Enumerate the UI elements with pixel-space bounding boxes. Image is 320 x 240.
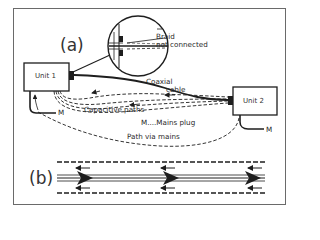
magnifier-leader — [73, 55, 110, 72]
part-a-label: (a) — [60, 37, 84, 54]
path-via-mains-label: Path via mains — [127, 133, 180, 140]
mains-plug-m-right: M — [266, 126, 272, 133]
path-via-mains — [38, 112, 239, 146]
unit2-connector — [228, 96, 233, 105]
mains-plug-m-left: M — [58, 109, 64, 116]
unit1-label: Unit 1 — [35, 73, 56, 80]
coax-label-line2: cable — [166, 86, 185, 93]
braid-label-line2: not connected — [156, 41, 208, 48]
capacitive-paths-label: Capacitive paths — [84, 106, 144, 113]
unit1-mains-lead — [30, 91, 56, 113]
unit2-mains-lead — [240, 115, 264, 129]
part-b-label: (b) — [29, 170, 53, 187]
unit2-label: Unit 2 — [243, 98, 264, 105]
mains-plug-legend: M....Mains plug — [141, 119, 195, 126]
part-b-current-diagram — [57, 162, 265, 193]
